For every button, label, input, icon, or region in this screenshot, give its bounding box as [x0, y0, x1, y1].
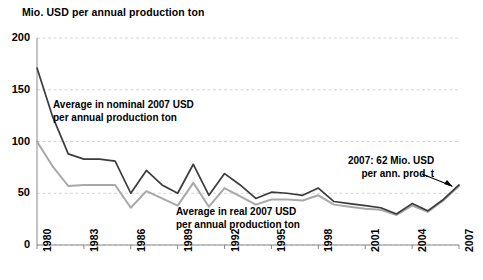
x-axis-tick-1986: 1986: [135, 229, 147, 252]
endpoint-callout-label: 2007: 62 Mio. USD per ann. prod. t: [348, 155, 434, 180]
x-axis-tick-2001: 2001: [369, 229, 381, 252]
x-axis-tick-1998: 1998: [322, 229, 334, 252]
x-axis-tick-2004: 2004: [416, 229, 428, 252]
x-axis-ticks: [37, 245, 459, 249]
real-series-label: Average in real 2007 USD per annual prod…: [176, 206, 300, 231]
x-axis-tick-1995: 1995: [275, 229, 287, 252]
x-axis-tick-1983: 1983: [88, 229, 100, 252]
x-axis-tick-1989: 1989: [182, 229, 194, 252]
y-axis-tick-200: 200: [2, 31, 30, 43]
x-axis-tick-1992: 1992: [229, 229, 241, 252]
y-axis-tick-100: 100: [2, 135, 30, 147]
y-axis-tick-0: 0: [2, 238, 30, 250]
chart-container: Mio. USD per annual production ton 20015…: [0, 0, 483, 280]
y-axis-tick-50: 50: [2, 186, 30, 198]
nominal-series-label: Average in nominal 2007 USD per annual p…: [53, 99, 194, 124]
x-axis-tick-1980: 1980: [41, 229, 53, 252]
x-axis-tick-2007: 2007: [463, 229, 475, 252]
y-axis-tick-150: 150: [2, 83, 30, 95]
chart-plot-area: [0, 0, 483, 280]
